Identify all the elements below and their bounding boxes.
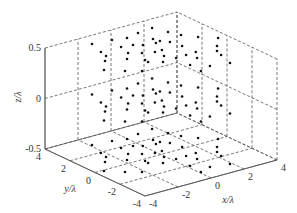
data-point (103, 119, 106, 122)
x-tick-label: 4 (281, 162, 286, 173)
data-point (154, 101, 157, 104)
x-axis-line (145, 160, 277, 196)
axes-lines (45, 48, 277, 196)
data-point (141, 70, 144, 73)
data-point (196, 107, 199, 110)
data-point (216, 45, 219, 48)
data-point (229, 163, 232, 166)
data-point (209, 65, 212, 68)
data-point (111, 89, 114, 92)
data-point (195, 152, 198, 155)
data-point (144, 59, 147, 62)
data-point (144, 160, 147, 163)
x-axis-label: x/λ (221, 194, 234, 205)
data-point (195, 101, 198, 104)
data-point (120, 96, 123, 99)
axes-grid (45, 12, 277, 196)
data-point (147, 111, 150, 114)
data-point (181, 95, 184, 98)
data-point (197, 137, 200, 140)
data-point (152, 88, 155, 91)
z-axis-label: z/λ (12, 91, 23, 104)
data-point (217, 138, 220, 141)
data-point (104, 60, 107, 63)
data-point (132, 94, 135, 97)
data-point (217, 37, 220, 40)
data-point (209, 166, 212, 169)
data-point (159, 90, 162, 93)
data-point (217, 87, 220, 90)
data-point (185, 104, 188, 107)
data-point (126, 58, 129, 61)
data-point (162, 162, 165, 165)
sidewall-gridline (177, 12, 277, 59)
data-point (180, 84, 183, 87)
data-point (200, 70, 203, 73)
y-tick-label: -2 (108, 186, 116, 197)
data-point (197, 86, 200, 89)
data-point (159, 40, 162, 43)
data-point (197, 36, 200, 39)
x-tick-label: 2 (248, 171, 253, 182)
data-point (111, 39, 114, 42)
data-point (141, 52, 144, 55)
data-point (180, 135, 183, 138)
data-point (167, 132, 170, 135)
data-point (105, 105, 108, 108)
data-point (216, 151, 219, 154)
data-point (155, 143, 158, 146)
data-points (91, 27, 232, 174)
data-point (200, 120, 203, 123)
data-point (100, 51, 103, 54)
data-point (142, 94, 145, 97)
y-tick-label: 4 (36, 151, 41, 162)
data-point (126, 138, 129, 141)
data-point (141, 120, 144, 123)
x-tick-label: -4 (149, 198, 157, 209)
data-point (167, 81, 170, 84)
data-point (137, 82, 140, 85)
data-point (126, 87, 129, 90)
data-point (181, 146, 184, 149)
data-point (169, 142, 172, 145)
data-point (105, 156, 108, 159)
data-point (152, 38, 155, 41)
data-point (141, 171, 144, 174)
x-tick-label: 0 (215, 180, 220, 191)
data-point (151, 77, 154, 80)
data-point (147, 162, 150, 165)
data-point (103, 69, 106, 72)
y-tick-label: 2 (61, 163, 66, 174)
data-point (175, 158, 178, 161)
floor-gridline (111, 131, 211, 178)
data-point (132, 145, 135, 148)
z-tick-label: 0 (36, 93, 41, 104)
y-axis-line (45, 149, 145, 196)
data-point (132, 44, 135, 47)
data-point (181, 45, 184, 48)
data-point (137, 32, 140, 35)
data-point (127, 153, 130, 156)
data-point (220, 54, 223, 57)
data-point (163, 105, 166, 108)
data-point (154, 51, 157, 54)
data-point (147, 61, 150, 64)
data-point (91, 93, 94, 96)
data-point (180, 34, 183, 37)
data-point (127, 52, 130, 55)
data-point (229, 62, 232, 65)
data-point (229, 112, 232, 115)
data-point (185, 155, 188, 158)
data-point (196, 158, 199, 161)
y-axis-label: y/λ (63, 183, 76, 194)
data-point (175, 57, 178, 60)
data-point (111, 140, 114, 143)
scatter3d-chart: 0.50-0.5420-2-4-4-2024 z/λ y/λ x/λ (0, 0, 297, 213)
data-point (216, 146, 219, 149)
data-point (189, 64, 192, 67)
data-point (141, 153, 144, 156)
data-point (155, 92, 158, 95)
data-point (189, 114, 192, 117)
data-point (154, 152, 157, 155)
data-point (151, 128, 154, 131)
